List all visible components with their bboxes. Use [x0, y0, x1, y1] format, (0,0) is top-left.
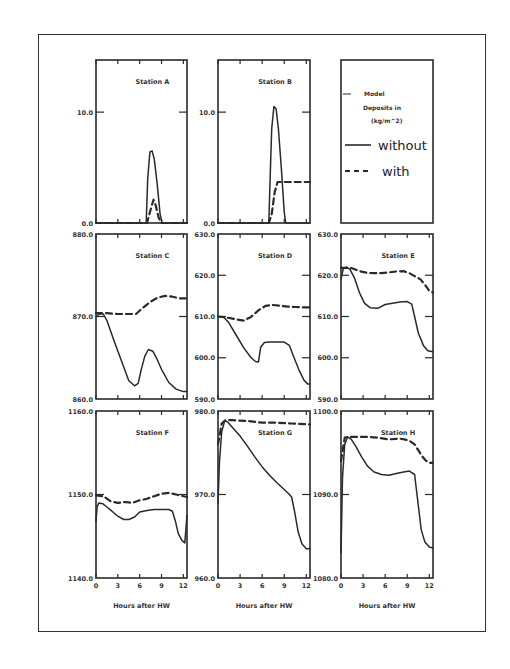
series-with — [218, 305, 310, 321]
legend-panel: ModelDeposits in(kg/m^2)withoutwith — [341, 60, 433, 223]
y-tick-label: 620.0 — [317, 272, 338, 280]
series-without — [218, 421, 310, 549]
y-tick-label: 980.0 — [194, 408, 215, 416]
panel-station-d: 590.0600.0610.0620.0630.0Station D — [194, 231, 310, 404]
series-with — [96, 296, 187, 314]
y-tick-label: 1150.0 — [68, 491, 94, 499]
panel-station-h: 036912Hours after HW1080.01090.01100.0St… — [313, 408, 434, 611]
series-with — [96, 200, 187, 223]
legend-label-without: without — [378, 138, 427, 153]
x-tick-label: 3 — [116, 582, 121, 590]
y-tick-label: 590.0 — [194, 396, 215, 404]
panel-title: Station B — [258, 78, 292, 86]
panel-title: Station H — [381, 429, 415, 437]
panel-title: Station E — [381, 252, 414, 260]
series-without — [96, 503, 187, 543]
x-tick-label: 9 — [159, 582, 164, 590]
y-tick-label: 1160.0 — [68, 408, 94, 416]
panel-title: Station C — [136, 252, 170, 260]
x-tick-label: 3 — [238, 582, 243, 590]
y-tick-label: 970.0 — [194, 491, 215, 499]
y-tick-label: 860.0 — [72, 396, 93, 404]
panel-station-a: 0.010.0Station A — [77, 60, 187, 228]
x-tick-label: 6 — [260, 582, 265, 590]
x-tick-label: 3 — [361, 582, 366, 590]
y-tick-label: 630.0 — [317, 231, 338, 239]
y-tick-label: 0.0 — [81, 220, 93, 228]
y-tick-label: 870.0 — [72, 313, 93, 321]
y-tick-label: 610.0 — [317, 313, 338, 321]
x-axis-label: Hours after HW — [236, 602, 293, 610]
y-tick-label: 10.0 — [77, 109, 94, 117]
series-without — [96, 151, 187, 223]
legend-label-with: with — [382, 164, 410, 179]
panel-title: Station A — [135, 78, 169, 86]
x-axis-label: Hours after HW — [359, 602, 416, 610]
x-tick-label: 0 — [216, 582, 221, 590]
x-tick-label: 9 — [282, 582, 287, 590]
y-tick-label: 600.0 — [317, 354, 338, 362]
y-tick-label: 1090.0 — [313, 491, 339, 499]
x-tick-label: 0 — [94, 582, 99, 590]
series-without — [218, 107, 310, 223]
y-tick-label: 1100.0 — [313, 408, 339, 416]
x-tick-label: 12 — [425, 582, 434, 590]
x-tick-label: 0 — [339, 582, 344, 590]
x-tick-label: 12 — [302, 582, 311, 590]
y-tick-label: 0.0 — [203, 220, 215, 228]
legend-title-line: Deposits in — [363, 104, 401, 112]
x-tick-label: 6 — [137, 582, 142, 590]
x-axis-label: Hours after HW — [113, 602, 170, 610]
panel-title: Station F — [136, 429, 169, 437]
panel-title: Station G — [258, 429, 292, 437]
x-tick-label: 9 — [405, 582, 410, 590]
panel-station-c: 860.0870.0880.0Station C — [72, 231, 187, 404]
x-tick-label: 12 — [179, 582, 188, 590]
y-tick-label: 600.0 — [194, 354, 215, 362]
series-with — [341, 437, 433, 463]
legend-title-line: Model — [364, 90, 385, 97]
y-tick-label: 960.0 — [194, 575, 215, 583]
y-tick-label: 10.0 — [199, 109, 216, 117]
series-without — [218, 317, 310, 385]
y-tick-label: 610.0 — [194, 313, 215, 321]
panel-station-b: 0.010.0Station B — [199, 60, 310, 228]
panel-station-f: 036912Hours after HW1140.01150.01160.0St… — [68, 408, 188, 611]
series-without — [96, 314, 187, 392]
y-tick-label: 1080.0 — [313, 575, 339, 583]
panel-station-g: 036912Hours after HW960.0970.0980.0Stati… — [194, 408, 310, 611]
y-tick-label: 880.0 — [72, 231, 93, 239]
station-deposits-chart: 0.010.0Station A0.010.0Station B860.0870… — [0, 0, 510, 669]
y-tick-label: 630.0 — [194, 231, 215, 239]
series-without — [341, 437, 433, 553]
y-tick-label: 620.0 — [194, 272, 215, 280]
y-tick-label: 1140.0 — [68, 575, 94, 583]
series-with — [218, 182, 310, 223]
panel-title: Station D — [258, 252, 293, 260]
x-tick-label: 6 — [383, 582, 388, 590]
legend-title-line: (kg/m^2) — [371, 117, 403, 125]
y-tick-label: 590.0 — [317, 396, 338, 404]
panel-station-e: 590.0600.0610.0620.0630.0Station E — [317, 231, 433, 404]
series-with — [96, 493, 187, 503]
